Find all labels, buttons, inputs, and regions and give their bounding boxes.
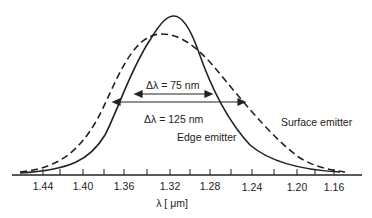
- surface-emitter-curve: [20, 34, 345, 172]
- tick-label: 1.40: [73, 180, 94, 192]
- tick-label: 1.20: [287, 181, 308, 193]
- tick-label: 1.44: [33, 180, 54, 192]
- tick-label: 1.28: [200, 180, 221, 192]
- fwhm-surface-arrow: [113, 99, 245, 105]
- fwhm-edge-arrow: [135, 91, 212, 97]
- tick-label: 1.16: [324, 181, 345, 193]
- fwhm-surface-label: Δλ = 125 nm: [144, 113, 204, 125]
- x-ticks: [43, 169, 334, 175]
- fwhm-edge-label: Δλ = 75 nm: [146, 79, 200, 91]
- edge-emitter-label: Edge emitter: [177, 131, 237, 143]
- tick-label: 1.36: [114, 180, 135, 192]
- tick-label: 1.24: [242, 181, 263, 193]
- x-axis-label: λ [ μm]: [156, 197, 188, 209]
- spectrum-chart: 1.44 1.40 1.36 1.32 1.28 1.24 1.20 1.16 …: [0, 0, 372, 218]
- tick-label: 1.32: [160, 180, 181, 192]
- x-tick-labels: 1.44 1.40 1.36 1.32 1.28 1.24 1.20 1.16: [33, 180, 345, 193]
- surface-emitter-label: Surface emitter: [281, 116, 353, 128]
